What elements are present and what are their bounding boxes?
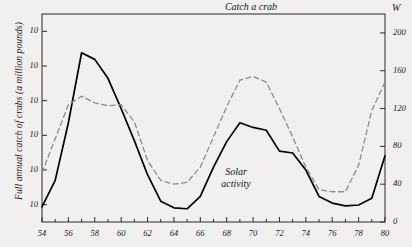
x-tick-label: 70 (242, 228, 264, 238)
data-series (42, 53, 385, 209)
x-tick-label: 58 (84, 228, 106, 238)
plot-area (0, 0, 412, 247)
y-tick-label-right: 200 (393, 27, 412, 37)
x-tick-label: 56 (57, 228, 79, 238)
series-line-catch-a-crab (42, 53, 385, 209)
y-tick-label-left: 10 (16, 25, 38, 35)
x-tick-label: 68 (216, 228, 238, 238)
axis-frame (42, 14, 385, 222)
x-tick-label: 76 (321, 228, 343, 238)
y-tick-label-right: 160 (393, 65, 412, 75)
y-tick-label-left: 10 (16, 60, 38, 70)
y-tick-label-left: 10 (16, 199, 38, 209)
x-tick-label: 60 (110, 228, 132, 238)
y-tick-label-right: 0 (393, 216, 412, 226)
axis-ticks (42, 31, 385, 222)
x-tick-label: 62 (137, 228, 159, 238)
y-tick-label-left: 10 (16, 95, 38, 105)
x-tick-label: 64 (163, 228, 185, 238)
x-tick-label: 54 (31, 228, 53, 238)
y-tick-label-right: 120 (393, 103, 412, 113)
x-tick-label: 72 (268, 228, 290, 238)
x-tick-label: 74 (295, 228, 317, 238)
series-line-solar-activity (42, 76, 385, 191)
x-tick-label: 78 (348, 228, 370, 238)
x-tick-label: 66 (189, 228, 211, 238)
x-tick-label: 80 (374, 228, 396, 238)
y-tick-label-right: 40 (393, 178, 412, 188)
y-tick-label-right: 80 (393, 140, 412, 150)
chart-figure: Full annual catch of crabs (a million po… (0, 0, 412, 247)
y-tick-label-left: 10 (16, 129, 38, 139)
y-tick-label-left: 10 (16, 164, 38, 174)
